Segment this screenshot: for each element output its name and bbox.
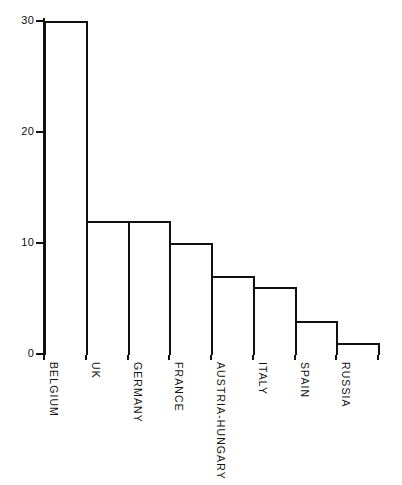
bar	[128, 221, 172, 355]
y-axis-tick	[36, 131, 44, 133]
x-axis-category-label: ITALY	[257, 362, 268, 395]
x-axis-category-label: UK	[90, 362, 101, 379]
bar	[169, 243, 213, 355]
bar-chart: 0102030 BELGIUMUKGERMANYFRANCEAUSTRIA-HU…	[0, 0, 402, 485]
x-axis-category-label: RUSSIA	[341, 362, 352, 408]
bar	[253, 287, 297, 355]
x-axis-category-label: GERMANY	[132, 362, 143, 423]
x-axis-category-label: FRANCE	[174, 362, 185, 412]
bar	[295, 321, 339, 355]
x-axis-category-label: BELGIUM	[49, 362, 60, 417]
y-axis-tick-label: 20	[8, 126, 34, 137]
y-axis-tick	[36, 20, 44, 22]
bar	[44, 21, 88, 355]
bar	[336, 343, 380, 355]
x-axis-category-label: AUSTRIA-HUNGARY	[216, 362, 227, 480]
bar	[86, 221, 130, 355]
x-axis-category-label: SPAIN	[299, 362, 310, 398]
y-axis-tick-label: 0	[8, 348, 34, 359]
y-axis-tick-label: 10	[8, 237, 34, 248]
bar	[211, 276, 255, 355]
y-axis-tick-label: 30	[8, 15, 34, 26]
y-axis-tick	[36, 242, 44, 244]
